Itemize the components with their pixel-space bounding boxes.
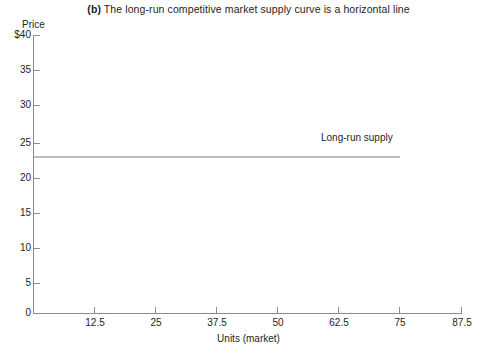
y-tick-label-40: $40: [3, 29, 31, 40]
chart-figure: (b) The long-run competitive market supp…: [0, 0, 497, 358]
x-tick-label-50: 50: [255, 317, 301, 328]
y-tick-marks: [34, 36, 40, 284]
plot-area: [0, 0, 497, 358]
x-tick-label-87-5: 87.5: [439, 317, 485, 328]
x-tick-label-25: 25: [133, 317, 179, 328]
y-tick-label-10: 10: [3, 242, 31, 253]
series-annotation-long-run-supply: Long-run supply: [321, 132, 393, 143]
y-tick-label-35: 35: [3, 64, 31, 75]
y-tick-label-5: 5: [3, 277, 31, 288]
x-tick-label-12-5: 12.5: [72, 317, 118, 328]
x-tick-marks: [95, 307, 462, 313]
x-tick-label-75: 75: [377, 317, 423, 328]
y-tick-label-0: 0: [3, 307, 31, 318]
y-tick-label-20: 20: [3, 172, 31, 183]
y-tick-label-15: 15: [3, 207, 31, 218]
x-tick-label-62-5: 62.5: [316, 317, 362, 328]
y-tick-labels: $40 35 30 25 20 15 10 5 0: [0, 0, 31, 358]
x-tick-label-37-5: 37.5: [194, 317, 240, 328]
y-tick-label-25: 25: [3, 137, 31, 148]
y-tick-label-30: 30: [3, 99, 31, 110]
